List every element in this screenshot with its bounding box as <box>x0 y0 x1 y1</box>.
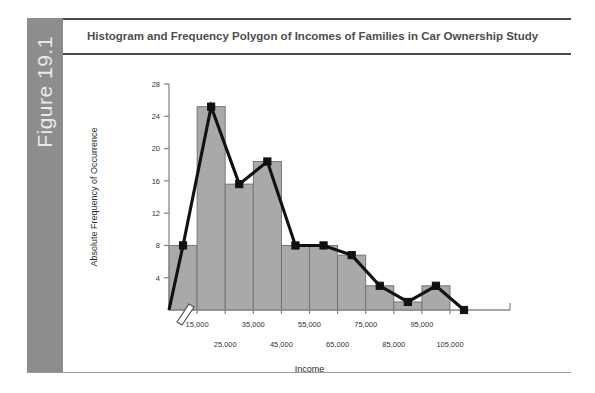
x-axis-tick-label: 95,000 <box>410 320 433 329</box>
histogram-bar <box>310 245 338 310</box>
frequency-polygon-marker <box>236 181 243 188</box>
histogram-bar <box>253 162 281 310</box>
figure-container: Figure 19.1 Histogram and Frequency Poly… <box>0 0 595 393</box>
frequency-polygon-marker <box>432 282 439 289</box>
frequency-polygon-marker <box>264 158 271 165</box>
y-axis-tick-label: 8 <box>156 241 160 250</box>
histogram-bar <box>225 184 253 310</box>
x-axis-tick-label: 35,000 <box>242 320 265 329</box>
y-axis-tick-label: 12 <box>152 209 160 218</box>
histogram-bar <box>281 245 309 310</box>
histogram-bar <box>338 255 366 310</box>
x-axis-tick-label: 55,000 <box>298 320 321 329</box>
income-histogram-chart: 481216202428Absolute Frequency of Occurr… <box>63 78 571 373</box>
figure-bottom-rule <box>27 372 571 373</box>
figure-number-label: Figure 19.1 <box>33 36 57 148</box>
frequency-polygon-marker <box>404 298 411 305</box>
x-axis-tick-label: 75,000 <box>354 320 377 329</box>
frequency-polygon-marker <box>320 242 327 249</box>
x-axis-tick-label: 105,000 <box>436 340 463 349</box>
y-axis-tick-label: 16 <box>152 177 160 186</box>
histogram-bar <box>169 245 197 310</box>
title-rule-bottom <box>63 53 571 55</box>
y-axis-tick-label: 28 <box>152 80 160 89</box>
y-axis-title: Absolute Frequency of Occurrence <box>89 127 99 266</box>
figure-title: Histogram and Frequency Polygon of Incom… <box>63 20 571 53</box>
figure-number-band: Figure 19.1 <box>27 18 63 373</box>
x-axis-tick-label: 45,000 <box>270 340 293 349</box>
x-axis-tick-label: 85,000 <box>382 340 405 349</box>
y-axis-tick-label: 24 <box>152 112 160 121</box>
chart-panel: 481216202428Absolute Frequency of Occurr… <box>63 78 571 373</box>
figure-title-block: Histogram and Frequency Polygon of Incom… <box>63 18 571 55</box>
frequency-polygon-marker <box>460 306 467 313</box>
x-axis-tick-label: 25,000 <box>214 340 237 349</box>
x-axis-tick-label: 15,000 <box>186 320 209 329</box>
x-axis-tick-label: 65,000 <box>326 340 349 349</box>
chart-render-group: 481216202428Absolute Frequency of Occurr… <box>89 80 510 373</box>
y-axis-tick-label: 20 <box>152 144 160 153</box>
frequency-polygon-marker <box>292 242 299 249</box>
frequency-polygon-marker <box>348 252 355 259</box>
frequency-polygon-marker <box>376 282 383 289</box>
frequency-polygon-marker <box>208 103 215 110</box>
frequency-polygon-marker <box>179 242 186 249</box>
y-axis-tick-label: 4 <box>156 274 160 283</box>
